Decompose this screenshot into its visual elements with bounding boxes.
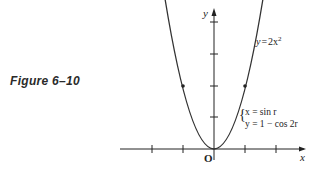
- x-axis-label: x: [299, 151, 305, 163]
- curve-label: y=2x2: [255, 35, 282, 47]
- param-eq-y: y = 1 − cos 2r: [245, 119, 299, 129]
- origin-label: O: [204, 152, 213, 164]
- point-right: [243, 84, 247, 88]
- y-axis-label: y: [202, 7, 208, 19]
- y-axis-arrow-icon: [212, 8, 217, 16]
- param-eq-x: x = sin r: [245, 107, 277, 117]
- parabola-plot: y x O y=2x2 { x = sin r y = 1 − cos 2r: [0, 0, 318, 170]
- point-left: [181, 84, 185, 88]
